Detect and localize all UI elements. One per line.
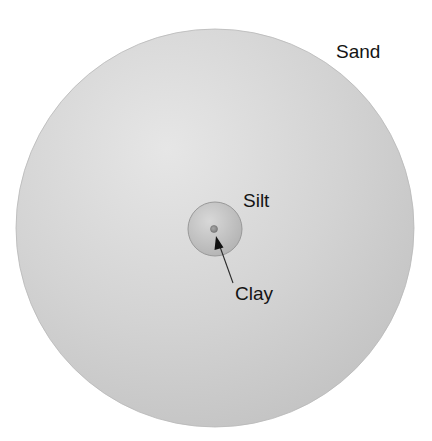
silt-label: Silt [243,191,269,210]
sand-label: Sand [336,42,380,61]
particle-size-diagram: Sand Silt Clay [0,0,432,441]
diagram-canvas [0,0,432,441]
clay-particle [211,226,218,233]
clay-label: Clay [235,284,273,303]
